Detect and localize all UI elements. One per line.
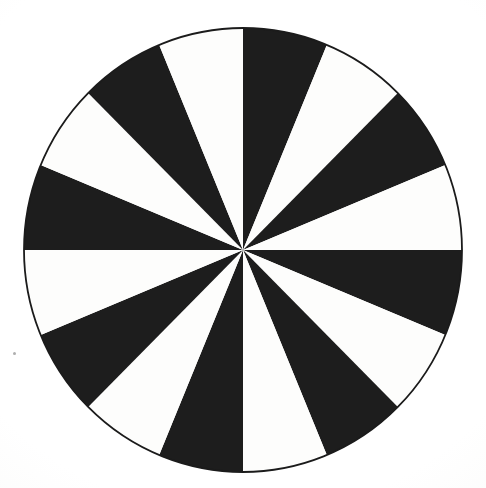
pie-chart-figure [0, 0, 486, 488]
scan-speck-artifact [13, 352, 16, 355]
pie-sector-group [24, 28, 462, 472]
pie-chart-svg [0, 0, 486, 488]
figure-page: 16 22.5 [0, 0, 486, 488]
